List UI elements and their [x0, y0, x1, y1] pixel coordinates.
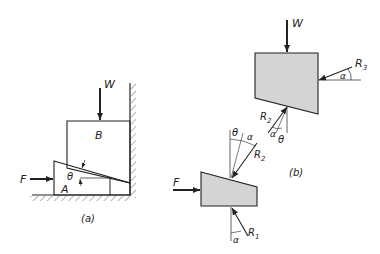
r1-arrow-icon	[232, 208, 248, 236]
label-theta-wedge: θ	[232, 127, 238, 138]
figure-b: W R3 α R2 α θ F θ α R2 R1 α (b)	[173, 17, 367, 245]
label-alpha-3: α	[340, 71, 346, 81]
ground-hatch	[30, 196, 131, 201]
r3-arrow-icon	[319, 67, 352, 80]
label-w-a: W	[104, 78, 116, 91]
wall-hatch	[131, 83, 136, 198]
alpha-1-arc	[231, 231, 241, 233]
label-r2-block: R2	[260, 111, 272, 125]
label-f-a: F	[20, 173, 27, 186]
label-r3: R3	[355, 57, 367, 72]
caption-a: (a)	[81, 213, 95, 224]
angle-arrow-bottom-icon	[80, 179, 81, 186]
label-a: A	[60, 183, 69, 196]
label-f-b: F	[173, 176, 180, 189]
label-r1: R1	[248, 227, 259, 241]
label-alpha-2: α	[270, 129, 276, 139]
label-b: B	[95, 129, 103, 142]
label-theta-a: θ	[67, 171, 73, 182]
wedge-diagram: W B θ F A (a) W R3 α R2 α θ F	[0, 0, 380, 254]
label-r2-wedge: R2	[254, 149, 266, 163]
label-alpha-wedge: α	[247, 132, 253, 142]
label-w-b: W	[292, 17, 304, 30]
block-b-fbd	[255, 53, 318, 114]
alpha-3-arc	[348, 69, 351, 80]
figure-a: W B θ F A (a)	[20, 78, 136, 224]
angle-arrow-top-icon	[82, 160, 85, 168]
label-theta-2: θ	[278, 134, 284, 145]
wedge-a-fbd	[201, 172, 257, 206]
label-alpha-1: α	[233, 235, 239, 245]
caption-b: (b)	[289, 167, 303, 178]
